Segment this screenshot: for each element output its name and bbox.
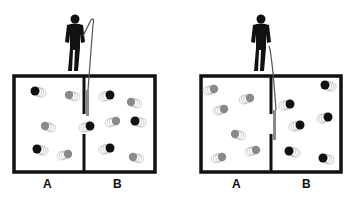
fast-molecule xyxy=(319,154,328,163)
fast-molecule xyxy=(106,144,115,153)
slow-molecule xyxy=(252,146,260,154)
slow-molecule xyxy=(112,117,120,125)
slow-molecule xyxy=(64,150,72,158)
demon-figure-icon xyxy=(251,15,271,72)
fast-molecule xyxy=(131,117,140,126)
slow-molecule xyxy=(231,130,239,138)
slow-molecule xyxy=(41,122,49,130)
chamber-a-label-after: A xyxy=(232,177,241,191)
maxwell-demon-diagram xyxy=(0,0,354,201)
gate-door xyxy=(86,90,89,116)
slow-molecule xyxy=(220,105,228,113)
slow-molecule xyxy=(127,98,135,106)
fast-molecule xyxy=(321,81,330,90)
fast-molecule xyxy=(285,147,294,156)
chamber-b-label-after: B xyxy=(302,177,311,191)
fast-molecule xyxy=(106,91,115,100)
slow-molecule xyxy=(246,94,254,102)
fast-molecule xyxy=(33,145,42,154)
slow-molecule xyxy=(65,91,73,99)
fast-molecule xyxy=(296,121,305,130)
fast-molecule xyxy=(31,87,40,96)
fast-molecule xyxy=(286,100,295,109)
slow-molecule xyxy=(210,85,218,93)
chamber-b-label-before: B xyxy=(113,177,122,191)
slow-molecule xyxy=(218,153,226,161)
demon-figure-icon xyxy=(65,15,85,72)
slow-molecule xyxy=(129,153,137,161)
fast-molecule xyxy=(86,122,95,131)
fast-molecule xyxy=(324,113,333,122)
chamber-a-label-before: A xyxy=(43,177,52,191)
gate-door xyxy=(273,110,276,140)
